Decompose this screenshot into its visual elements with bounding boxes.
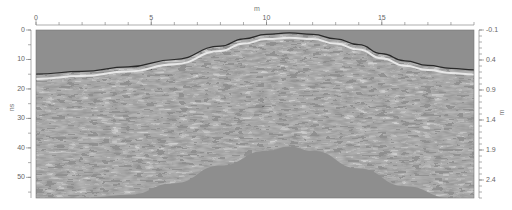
left-tick-label: 0 — [21, 26, 25, 33]
top-tick-label: 10 — [261, 14, 273, 21]
top-tick-label: 5 — [145, 14, 157, 21]
left-tick-label: 10 — [17, 55, 25, 62]
radargram-chart — [0, 0, 512, 210]
right-axis — [479, 30, 484, 198]
left-axis-title: ns — [8, 104, 15, 111]
left-tick-label: 40 — [17, 144, 25, 151]
right-axis-title: m — [498, 110, 505, 116]
plot-area — [36, 30, 474, 203]
top-axis — [36, 20, 474, 25]
left-tick-label: 50 — [17, 173, 25, 180]
right-tick-label: 1.9 — [486, 146, 496, 153]
right-tick-label: 2.4 — [486, 176, 496, 183]
left-tick-label: 30 — [17, 114, 25, 121]
top-tick-label: 15 — [376, 14, 388, 21]
right-tick-label: -0.1 — [486, 26, 498, 33]
left-tick-label: 20 — [17, 85, 25, 92]
top-axis-title: m — [254, 5, 260, 12]
right-tick-label: 0.4 — [486, 56, 496, 63]
right-tick-label: 1.4 — [486, 116, 496, 123]
top-tick-label: 0 — [30, 14, 42, 21]
right-tick-label: 0.9 — [486, 86, 496, 93]
left-axis — [26, 30, 31, 198]
